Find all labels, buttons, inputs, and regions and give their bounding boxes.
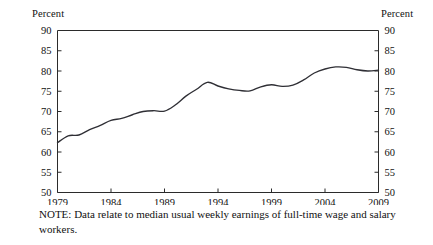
x-tick-label: 1984 — [101, 197, 123, 206]
x-tick-label: 1979 — [47, 197, 68, 206]
y-tick-label: 70 — [41, 106, 52, 117]
y-tick-labels-right: 505560657075808590 — [385, 25, 396, 198]
line-chart-svg: 505560657075808590 505560657075808590 19… — [0, 0, 433, 205]
y-tick-label: 55 — [385, 167, 396, 178]
data-series-line — [58, 67, 379, 143]
y-tick-label: 55 — [41, 167, 52, 178]
x-tick-label: 1999 — [261, 197, 282, 206]
axes-group — [58, 31, 379, 193]
x-tick-label: 2009 — [368, 197, 389, 206]
y-tick-label: 60 — [385, 147, 396, 158]
y-tick-label: 70 — [385, 106, 396, 117]
y-tick-label: 75 — [385, 86, 396, 97]
y-tick-label: 80 — [41, 66, 52, 77]
x-tick-label: 1994 — [208, 197, 230, 206]
y-tick-label: 65 — [41, 126, 52, 137]
y-tick-labels-left: 505560657075808590 — [41, 25, 52, 198]
y-tick-label: 90 — [385, 25, 396, 36]
chart-note: NOTE: Data relate to median usual weekly… — [39, 207, 425, 236]
y-tick-label: 65 — [385, 126, 396, 137]
y-tick-label: 75 — [41, 86, 52, 97]
y-tick-label: 85 — [41, 45, 52, 56]
x-tick-label: 2004 — [315, 197, 337, 206]
y-tick-label: 60 — [41, 147, 52, 158]
y-tick-label: 80 — [385, 66, 396, 77]
y-tick-label: 85 — [385, 45, 396, 56]
y-tick-label: 90 — [41, 25, 52, 36]
x-tick-label: 1989 — [154, 197, 175, 206]
chart-figure: Percent Percent 505560657075808590 50556… — [0, 0, 433, 245]
x-tick-labels: 1979198419891994199920042009 — [47, 197, 389, 206]
plot-area: 505560657075808590 505560657075808590 19… — [0, 0, 433, 205]
